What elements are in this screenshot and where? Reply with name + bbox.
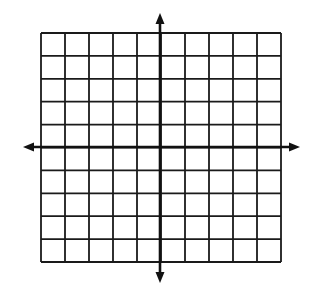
arrow-left-icon — [23, 143, 34, 152]
coordinate-grid — [0, 0, 314, 294]
arrow-up-icon — [156, 13, 165, 24]
arrow-down-icon — [156, 272, 165, 283]
arrow-right-icon — [289, 143, 300, 152]
